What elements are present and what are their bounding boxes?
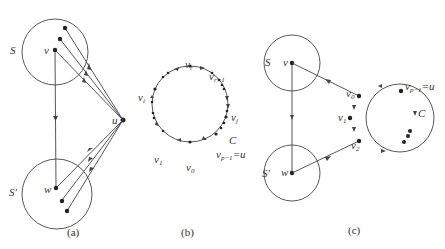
cycle-vertex [408, 129, 412, 133]
arrow-icon [88, 157, 93, 162]
cycle-vertex [167, 72, 170, 75]
vertex-v1 [348, 116, 352, 120]
panel-a: S v u S' w (a) [9, 19, 126, 239]
edge-sp1-u [62, 120, 123, 200]
edge-sp2-u [67, 120, 123, 211]
label-v-j: vj [231, 111, 238, 125]
label-cycle-c: C [418, 107, 426, 119]
cycle-vertex [153, 117, 156, 120]
cycle-vertex [406, 134, 410, 138]
label-s: S [10, 44, 16, 56]
cycle-vertex [226, 110, 229, 113]
figure-canvas: S v u S' w (a) v [0, 0, 445, 249]
cycle-vertex [220, 127, 223, 130]
arrow-icon [381, 149, 386, 153]
vertex-s2 [58, 37, 62, 41]
arrow-icon [155, 121, 159, 126]
vertex-sp1 [60, 199, 64, 203]
vertex-v-p-minus-1 [399, 89, 403, 93]
cycle-vertex [151, 101, 154, 104]
label-s: S [265, 56, 271, 68]
cycle-vertex [223, 122, 226, 125]
arrow-icon [177, 138, 181, 142]
panel-c: S v S' w v0 v1 v2 vp−1=u C (c) [262, 35, 435, 237]
vertex-w [54, 186, 58, 190]
label-v-0: v0 [346, 87, 355, 101]
label-w: w [44, 183, 52, 195]
cycle-vertex [224, 115, 227, 118]
caption-a: (a) [67, 226, 80, 239]
cycle-vertex [153, 87, 156, 90]
caption-b: (b) [181, 226, 194, 239]
vertex-v2 [357, 139, 361, 143]
arrow-icon [53, 116, 58, 121]
label-v-i: vi [138, 91, 145, 105]
edge-u-v [55, 50, 123, 120]
vertex-v [53, 48, 57, 52]
arrow-icon [352, 105, 356, 110]
edge-w-u [56, 120, 123, 188]
vertex-s1 [63, 26, 67, 30]
arrow-icon [413, 111, 417, 116]
cycle-vertex [223, 88, 226, 91]
caption-c: (c) [348, 224, 361, 237]
cycle-vertex [188, 140, 191, 143]
edge-u-s2 [60, 39, 123, 120]
cycle-vertex [162, 130, 165, 133]
arrow-icon [290, 115, 294, 120]
cycle-vertex [214, 132, 217, 135]
label-cycle-c: C [229, 134, 237, 146]
label-v-1: v1 [154, 153, 162, 167]
label-v: v [283, 56, 288, 68]
label-u: u [112, 114, 118, 126]
arrow-icon [226, 104, 230, 109]
label-v: v [44, 44, 49, 56]
edge-u-s1 [65, 28, 123, 120]
panel-b: vr vr+1 vj C vp−1=u v0 v1 vi (b) [138, 58, 246, 239]
vertex-sp2 [65, 209, 69, 213]
cycle-vertex [221, 84, 224, 87]
arrow-icon [200, 66, 205, 70]
cycle-vertex [402, 140, 406, 144]
label-v-r-plus-1: vr+1 [209, 70, 225, 84]
label-v-1: v1 [338, 111, 346, 125]
label-s-prime: S' [262, 167, 271, 179]
label-v-0: v0 [186, 161, 195, 175]
arrow-icon [174, 67, 179, 71]
label-s-prime: S' [9, 186, 18, 198]
arrow-icon [352, 127, 356, 132]
label-w: w [281, 166, 289, 178]
label-v-p-minus-1: vp−1=u [405, 80, 435, 94]
label-v-p-minus-1: vp−1=u [216, 148, 246, 162]
cycle-vertex [162, 76, 165, 79]
arrow-icon [325, 79, 331, 84]
cycle-vertex [152, 112, 155, 115]
label-v-r: vr [185, 58, 193, 72]
set-s-prime-circle [22, 159, 92, 229]
arrow-icon [225, 96, 229, 101]
vertex-v0 [357, 94, 361, 98]
arrow-icon [378, 84, 382, 88]
